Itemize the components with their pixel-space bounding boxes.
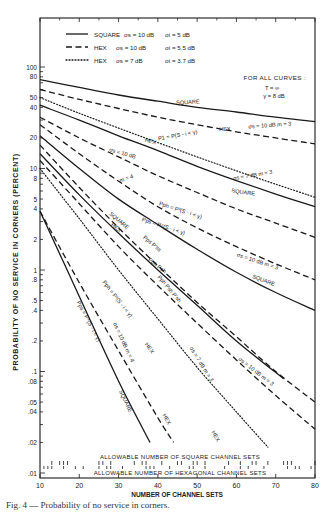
curve-annotation: Pps = P⁴(S - i < γ) [76, 300, 102, 343]
series-line [40, 125, 315, 280]
curve-annotation: HEX [219, 126, 231, 133]
curve-annotation: Pph = P³(S - i < γ) [158, 200, 203, 220]
curve-annotation: σs = 7 dB m = 3 [189, 345, 215, 382]
y-axis-label: PROBABILITY OF NO SERVICE IN CORNERS (PE… [12, 153, 20, 371]
note-line-1: T = ∞ [265, 85, 279, 91]
y-tick-label: 2 [33, 236, 37, 243]
curve-annotation: HEX [144, 341, 156, 354]
curve-annotation: Pph = P³(S - i < γ) [101, 279, 133, 318]
x-tick-label: 80 [311, 482, 319, 489]
curve-annotation: HEX [144, 137, 157, 146]
note-line-2: γ = 8 dB [263, 93, 285, 99]
y-axis-ticks: 100805040201085421.8.5.4.2.1.08.05.04.02… [26, 64, 45, 477]
series-line [40, 105, 315, 207]
y-tick-label: 40 [30, 104, 38, 111]
curve-annotation: Pps P'ss [142, 234, 163, 253]
legend-sigma-s: σs = 10 dB [124, 31, 154, 38]
curve-annotation: σs = 10 dB m = 3 [248, 121, 291, 130]
x-tick-label: 10 [36, 482, 44, 489]
curve-annotation: SQUARE [252, 273, 277, 287]
chart: 100805040201085421.8.5.4.2.1.08.05.04.02… [0, 0, 334, 512]
x-tick-label: 60 [233, 482, 241, 489]
note-for-all-curves: FOR ALL CURVES :T = ∞γ = 8 dB [244, 74, 306, 99]
curve-annotation: SQUARE [118, 389, 134, 413]
legend-label: SQUARE [94, 31, 120, 38]
curve-annotation: SQUARE [231, 187, 255, 196]
y-tick-label: 50 [30, 94, 38, 101]
curve-annotation: σs = 10 dB m = 3 [236, 252, 279, 271]
y-tick-label: 5 [33, 196, 37, 203]
y-tick-label: .05 [28, 399, 37, 406]
legend-sigma-s: σs = 10 dB [116, 44, 146, 51]
square-allowable-label: ALLOWABLE NUMBER OF SQUARE CHANNEL SETS [100, 454, 260, 460]
hex-allowable-label: ALLOWABLE NUMBER OF HEXAGONAL CHANNEL SE… [94, 470, 267, 476]
y-tick-label: 80 [30, 73, 38, 80]
figure-caption: Fig. 4 — Probability of no service in co… [6, 500, 169, 510]
curve-annotation: σs = 10 dB [109, 146, 137, 159]
x-tick-label: 20 [75, 482, 83, 489]
legend-label: HEX [94, 44, 107, 51]
series-line [40, 169, 268, 448]
y-tick-label: .1 [32, 368, 38, 375]
legend-sigma-s: σs = 7 dB [116, 57, 143, 64]
y-tick-label: .2 [32, 337, 38, 344]
legend-sigma-i: σi = 5.5 dB [165, 44, 195, 51]
x-axis-label: NUMBER OF CHANNEL SETS [131, 491, 223, 498]
y-tick-label: .04 [28, 408, 37, 415]
legend-label: HEX [94, 57, 107, 64]
x-tick-label: 50 [193, 482, 201, 489]
x-tick-label: 40 [154, 482, 162, 489]
y-tick-label: .5 [32, 297, 38, 304]
legend-sigma-i: σi = 3.7 dB [165, 57, 195, 64]
y-tick-label: 8 [33, 175, 37, 182]
curve-annotation: P1 = P(S - i < γ) [158, 129, 198, 142]
curve-annotation: σs = 10 dB m = 3 [237, 356, 275, 387]
y-tick-label: .02 [28, 439, 37, 446]
legend-sigma-i: σi = 5 dB [165, 31, 190, 38]
y-tick-label: 20 [30, 134, 38, 141]
note-title: FOR ALL CURVES : [244, 74, 306, 81]
curve-annotation: HEX [161, 413, 172, 426]
x-tick-label: 30 [115, 482, 123, 489]
series-line [40, 98, 315, 198]
curve-annotation: σs = 10 dB m = 4 [112, 321, 136, 362]
x-tick-label: 70 [272, 482, 280, 489]
legend: SQUAREσs = 10 dBσi = 5 dBHEXσs = 10 dBσi… [66, 31, 195, 64]
y-tick-label: .01 [28, 470, 37, 477]
curve-annotation: m = 4 [119, 173, 134, 183]
y-tick-label: 10 [30, 165, 38, 172]
y-tick-label: 4 [33, 205, 37, 212]
y-tick-label: .08 [28, 378, 37, 385]
curve-annotation: HEX [210, 430, 221, 443]
curve-annotation: Pps = P⁴(S - i < γ) [141, 216, 186, 236]
y-tick-label: .4 [32, 307, 38, 314]
curve-annotation: SQUARE [176, 98, 200, 105]
curve-annotation: σs = 7 dB m = 3 [233, 169, 273, 182]
y-tick-label: 1 [33, 267, 37, 274]
y-tick-label: 100 [26, 64, 37, 71]
curve-annotations: SQUAREHEXσs = 10 dB m = 3P1 = P(S - i < … [76, 98, 292, 442]
curve-annotation: Pph Psh [147, 257, 167, 275]
y-tick-label: .8 [32, 276, 38, 283]
allowable-channel-sets: ALLOWABLE NUMBER OF SQUARE CHANNEL SETSA… [44, 454, 315, 476]
